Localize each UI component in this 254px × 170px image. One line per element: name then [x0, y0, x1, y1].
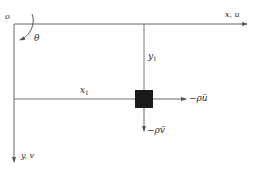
theta-arc-icon: [20, 14, 33, 40]
y-axis-label: y, v: [21, 152, 34, 160]
force-y-label: −ρv̈: [147, 126, 165, 135]
x1-label: x1: [80, 86, 89, 96]
mass-element: [135, 90, 153, 108]
diagram-canvas: [0, 0, 254, 170]
x1-label-sub: 1: [85, 89, 89, 96]
y1-label: y1: [148, 52, 157, 62]
force-x-label: −ρü: [189, 94, 208, 103]
theta-label: θ: [34, 34, 39, 43]
y1-label-sub: 1: [153, 55, 157, 62]
x-axis-label: x, u: [225, 11, 240, 19]
origin-label: o: [5, 13, 10, 21]
